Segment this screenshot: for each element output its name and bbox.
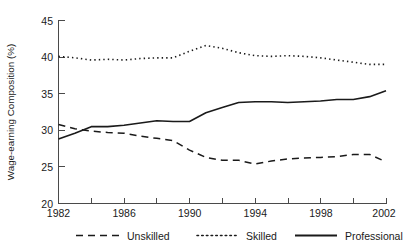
legend-label-unskilled: Unskilled xyxy=(127,230,170,242)
y-tick-label-30: 30 xyxy=(41,124,53,136)
x-tick-label-1986: 1986 xyxy=(112,207,136,219)
y-tick-label-35: 35 xyxy=(41,88,53,100)
wage-earning-composition-line-chart: 45 40 35 30 25 20 Wage-earning Compositi… xyxy=(0,0,409,248)
x-tick-label-1990: 1990 xyxy=(178,207,202,219)
y-tick-label-40: 40 xyxy=(41,51,53,63)
x-tick-label-1994: 1994 xyxy=(244,207,268,219)
y-tick-label-45: 45 xyxy=(41,15,53,27)
y-tick-label-25: 25 xyxy=(41,161,53,173)
x-axis-ticks xyxy=(59,198,387,204)
series-line-skilled xyxy=(59,45,387,64)
y-axis-ticks xyxy=(59,21,65,204)
y-axis-title: Wage-earning Composition (%) xyxy=(5,44,16,180)
series-line-unskilled xyxy=(59,124,387,164)
legend-label-skilled: Skilled xyxy=(246,230,277,242)
legend-label-professional: Professional xyxy=(345,230,403,242)
x-tick-label-1998: 1998 xyxy=(309,207,333,219)
chart-figure: 45 40 35 30 25 20 Wage-earning Compositi… xyxy=(0,0,409,248)
x-tick-label-1982: 1982 xyxy=(47,207,71,219)
x-tick-label-2002: 2002 xyxy=(372,207,396,219)
chart-legend: Unskilled Skilled Professional xyxy=(76,230,403,242)
